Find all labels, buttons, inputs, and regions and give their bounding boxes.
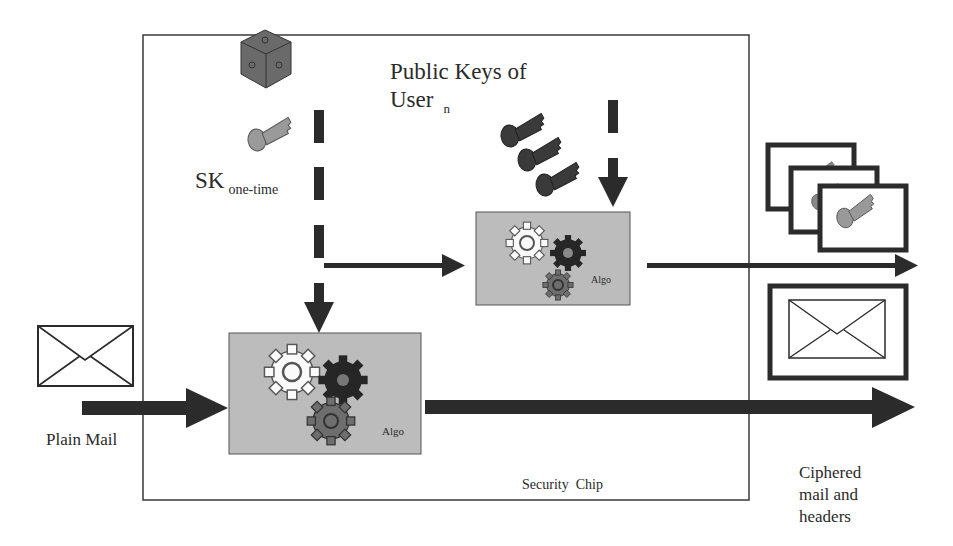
plain-mail-input-arrow — [82, 388, 228, 428]
ciphered-label-line2: mail and — [799, 484, 861, 506]
ciphered-label-line1: Ciphered — [799, 462, 861, 484]
algo-box-keys — [476, 212, 630, 305]
session-key-icon — [246, 117, 295, 152]
dice-icon — [241, 30, 291, 88]
ciphered-label-line3: headers — [799, 506, 861, 528]
security-chip-label: Security Chip — [522, 477, 603, 493]
public-keys-dashed-line — [598, 100, 628, 207]
session-key-label: SKone-time — [195, 168, 278, 198]
public-keys-label-line2: Usern — [390, 86, 527, 123]
session-key-subscript: one-time — [228, 182, 278, 197]
public-keys-label-line1: Public Keys of — [390, 58, 527, 86]
public-keys-subscript: n — [443, 101, 450, 116]
encrypted-mail-card — [770, 286, 906, 378]
session-key-dashed-line — [304, 110, 334, 333]
public-keys-icon — [499, 113, 583, 197]
plain-mail-envelope-icon — [38, 326, 133, 386]
session-key-to-algo-arrow — [324, 254, 465, 277]
encrypted-keys-arrow — [647, 254, 918, 277]
ciphered-output-label: Ciphered mail and headers — [799, 462, 861, 528]
algo-label-main: Algo — [382, 425, 404, 437]
public-keys-label: Public Keys of Usern — [390, 58, 527, 123]
ciphered-mail-output-arrow — [425, 387, 915, 428]
algo-label-keys: Algo — [591, 274, 611, 285]
encrypted-keys-cards — [768, 145, 906, 250]
plain-mail-label: Plain Mail — [46, 430, 117, 450]
